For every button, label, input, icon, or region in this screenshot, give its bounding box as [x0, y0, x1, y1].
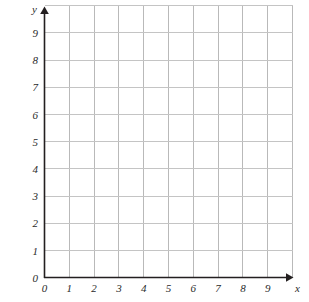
x-tick-label-1: 1	[61, 283, 77, 294]
x-tick-label-0: 0	[37, 283, 53, 294]
y-tick-label-7: 7	[22, 82, 38, 93]
y-tick-label-3: 3	[22, 191, 38, 202]
y-axis-arrowhead	[40, 7, 49, 15]
y-tick-label-1: 1	[22, 246, 38, 257]
x-tick-label-9: 9	[260, 283, 276, 294]
y-tick-label-5: 5	[22, 137, 38, 148]
y-axis-label: y	[32, 4, 37, 15]
x-tick-label-7: 7	[210, 283, 226, 294]
coordinate-grid-figure: 0 1 2 3 4 5 6 7 8 9 0 1 2 3 4 5 6 7 8 9 …	[0, 0, 309, 302]
x-tick-label-2: 2	[86, 283, 102, 294]
y-tick-label-4: 4	[22, 164, 38, 175]
y-tick-label-9: 9	[22, 28, 38, 39]
y-tick-label-6: 6	[22, 110, 38, 121]
x-tick-label-5: 5	[161, 283, 177, 294]
x-tick-label-6: 6	[185, 283, 201, 294]
y-tick-label-0: 0	[22, 273, 38, 284]
x-tick-label-3: 3	[111, 283, 127, 294]
x-tick-label-8: 8	[235, 283, 251, 294]
x-axis-label: x	[295, 283, 300, 294]
grid-plot-area	[0, 0, 309, 302]
x-tick-label-4: 4	[136, 283, 152, 294]
y-tick-label-8: 8	[22, 55, 38, 66]
y-tick-label-2: 2	[22, 218, 38, 229]
